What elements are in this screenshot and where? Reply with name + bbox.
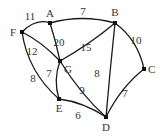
vertex-e <box>57 97 61 101</box>
edge-weight-b-c: 10 <box>131 34 143 46</box>
vertex-label-b: B <box>111 6 118 18</box>
vertex-b <box>113 21 117 25</box>
vertex-label-f: F <box>10 26 16 38</box>
vertex-d <box>104 115 108 119</box>
edge-weight-b-d: 8 <box>94 67 100 79</box>
edge-b-c <box>115 23 144 69</box>
vertex-g <box>58 59 62 63</box>
vertex-label-a: A <box>46 7 54 19</box>
vertex-a <box>48 21 52 25</box>
weighted-graph-diagram: 11720121510887967 ABCDEFG <box>0 0 163 138</box>
weights-layer: 11720121510887967 <box>25 5 142 121</box>
edge-e-d <box>59 99 106 117</box>
edge-weight-a-b: 7 <box>80 5 86 17</box>
vertex-label-d: D <box>102 121 110 133</box>
edge-f-a <box>22 22 50 32</box>
edges-layer <box>22 19 144 118</box>
vertex-c <box>142 67 146 71</box>
edge-weight-f-a: 11 <box>25 10 36 22</box>
edge-weight-b-g: 15 <box>81 41 93 53</box>
edge-weight-g-d: 9 <box>79 84 85 96</box>
edge-weight-f-g: 12 <box>27 45 38 57</box>
vertex-label-g: G <box>64 63 72 75</box>
vertex-f <box>20 30 24 34</box>
edge-weight-e-d: 6 <box>75 109 81 121</box>
edge-g-e <box>56 61 60 99</box>
edge-a-b <box>50 19 115 24</box>
edge-weight-g-e: 7 <box>46 67 52 79</box>
edge-weight-c-d: 7 <box>122 87 128 99</box>
vertex-label-e: E <box>56 102 63 114</box>
edge-weight-a-g: 20 <box>54 36 66 48</box>
nodes-layer <box>20 21 146 119</box>
edge-weight-f-e: 8 <box>30 72 36 84</box>
vertex-label-c: C <box>148 63 155 75</box>
